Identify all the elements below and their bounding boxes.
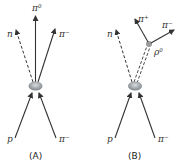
label-pi-minus-decay: π− <box>161 20 173 30</box>
interaction-vertex <box>128 82 142 91</box>
outgoing-neutron-line <box>16 30 33 82</box>
incoming-pi-minus-line <box>39 93 56 138</box>
caption-b: (B) <box>128 151 141 161</box>
incoming-proton-line <box>115 93 131 138</box>
incoming-proton-line <box>15 93 32 138</box>
decay-pi-minus-line <box>151 30 174 43</box>
feynman-diagram: π0 n π− p π− (A) n π+ π− ρ0 p π− (B) <box>0 0 180 164</box>
outgoing-pi-minus-line <box>38 29 55 82</box>
label-rho-zero: ρ0 <box>153 47 163 57</box>
label-pi-minus-out: π− <box>58 29 70 39</box>
label-proton: p <box>107 134 113 144</box>
rho-zero-line-1 <box>134 46 147 82</box>
outgoing-neutron-line <box>116 30 132 82</box>
label-neutron: n <box>7 29 13 39</box>
label-pi-minus-in: π− <box>58 134 70 144</box>
panel-a: π0 n π− p π− (A) <box>7 3 70 161</box>
incoming-pi-minus-line <box>139 93 155 138</box>
caption-a: (A) <box>29 151 42 161</box>
label-proton: p <box>7 134 13 144</box>
label-pi-zero: π0 <box>31 3 42 13</box>
decay-vertex <box>146 41 152 47</box>
panel-b: n π+ π− ρ0 p π− (B) <box>107 14 174 161</box>
label-neutron: n <box>107 29 113 39</box>
interaction-vertex <box>29 82 43 91</box>
label-pi-plus: π+ <box>137 14 149 24</box>
rho-zero-line-2 <box>137 47 150 83</box>
label-pi-minus-in: π− <box>157 134 169 144</box>
